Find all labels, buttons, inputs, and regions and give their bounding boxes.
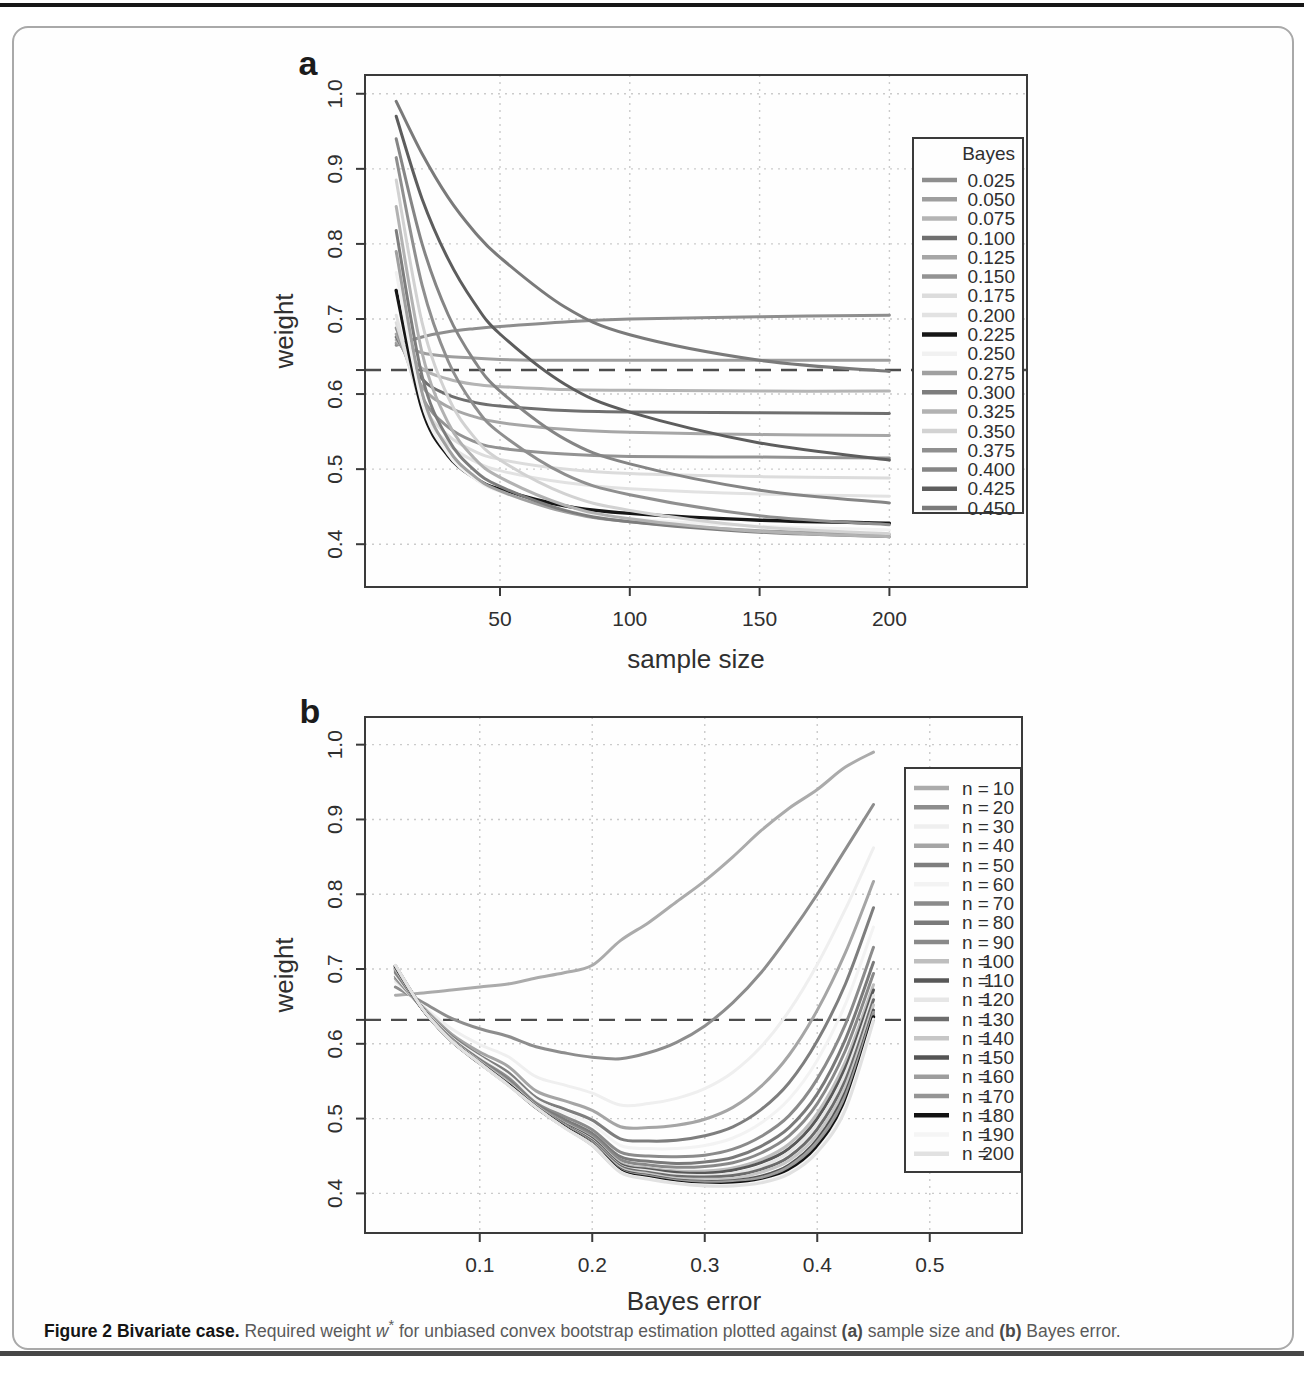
legend-label: 0.100 — [967, 228, 1015, 249]
y-tick-label: 0.9 — [323, 154, 346, 183]
series-line — [396, 251, 889, 534]
legend-label: 0.225 — [967, 324, 1015, 345]
panel-b-plot: 0.10.20.30.40.50.40.50.60.70.80.91.0n =1… — [323, 717, 1022, 1276]
x-tick-label: 0.1 — [465, 1253, 494, 1276]
legend-label: 0.375 — [967, 440, 1015, 461]
legend-label-value: 200 — [982, 1143, 1014, 1164]
legend-label: 0.175 — [967, 285, 1015, 306]
series-line — [396, 206, 889, 536]
legend-label: 0.025 — [967, 170, 1015, 191]
x-tick-label: 50 — [488, 607, 511, 630]
caption-text-3: sample size and — [863, 1321, 999, 1341]
caption-title: Figure 2 Bivariate case. — [44, 1321, 240, 1341]
figure-charts: 501001502000.40.50.60.70.80.91.0Bayes0.0… — [0, 0, 1304, 1384]
legend-label-value: 190 — [982, 1124, 1014, 1145]
panel-b-y-axis-title: weight — [269, 937, 299, 1014]
series-line — [395, 965, 873, 1186]
y-tick-label: 0.8 — [323, 880, 346, 909]
series-line — [396, 101, 889, 371]
legend-label-value: 50 — [993, 855, 1014, 876]
y-tick-label: 0.4 — [323, 1178, 346, 1208]
y-tick-label: 1.0 — [323, 79, 346, 108]
legend-label: 0.325 — [967, 401, 1015, 422]
series-line — [395, 968, 873, 1177]
x-tick-label: 0.3 — [690, 1253, 719, 1276]
y-tick-label: 0.7 — [323, 304, 346, 333]
legend-label-prefix: n = — [962, 874, 989, 895]
legend-label-value: 140 — [982, 1028, 1014, 1049]
caption-text-4: Bayes error. — [1022, 1321, 1121, 1341]
caption-panel-a-ref: (a) — [842, 1321, 863, 1341]
legend-label: 0.350 — [967, 421, 1015, 442]
legend-label-value: 60 — [993, 874, 1014, 895]
y-tick-label: 0.5 — [323, 454, 346, 483]
panel-a-x-axis-title: sample size — [627, 644, 764, 674]
legend-label: 0.450 — [967, 498, 1015, 519]
legend-label-prefix: n = — [962, 855, 989, 876]
legend-title: Bayes — [962, 143, 1015, 164]
figure-caption: Figure 2 Bivariate case. Required weight… — [44, 1316, 1259, 1343]
legend-label-value: 40 — [993, 835, 1014, 856]
legend-label-prefix: n = — [962, 835, 989, 856]
legend-label-value: 130 — [982, 1009, 1014, 1030]
panel-b-label: b — [300, 692, 321, 730]
legend-label: 0.150 — [967, 266, 1015, 287]
panel-a-label: a — [299, 44, 319, 82]
legend-label-value: 170 — [982, 1086, 1014, 1107]
caption-panel-b-ref: (b) — [999, 1321, 1021, 1341]
legend-label-value: 120 — [982, 989, 1014, 1010]
x-tick-label: 0.2 — [578, 1253, 607, 1276]
caption-text-2: for unbiased convex bootstrap estimation… — [394, 1321, 842, 1341]
legend-label-prefix: n = — [962, 893, 989, 914]
legend-label-prefix: n = — [962, 797, 989, 818]
x-tick-label: 200 — [872, 607, 907, 630]
legend-label: 0.250 — [967, 343, 1015, 364]
legend-label-value: 160 — [982, 1066, 1014, 1087]
y-tick-label: 0.6 — [323, 1029, 346, 1058]
y-tick-label: 0.7 — [323, 954, 346, 983]
legend-label-prefix: n = — [962, 816, 989, 837]
legend-label: 0.425 — [967, 478, 1015, 499]
y-tick-label: 1.0 — [323, 730, 346, 759]
series-line — [396, 315, 889, 345]
legend-label-prefix: n = — [962, 912, 989, 933]
legend-label: 0.050 — [967, 189, 1015, 210]
legend-label-value: 30 — [993, 816, 1014, 837]
legend-label: 0.200 — [967, 305, 1015, 326]
series-line — [395, 752, 873, 995]
legend-label-value: 90 — [993, 932, 1014, 953]
y-tick-label: 0.8 — [323, 229, 346, 258]
x-tick-label: 0.4 — [803, 1253, 833, 1276]
legend-label: 0.300 — [967, 382, 1015, 403]
figure-page: { "figure": { "panel_a_tag": "a", "panel… — [0, 0, 1304, 1384]
caption-text: Required weight — [240, 1321, 376, 1341]
legend-label: 0.275 — [967, 363, 1015, 384]
legend-label: 0.125 — [967, 247, 1015, 268]
legend-label-prefix: n = — [962, 778, 989, 799]
x-tick-label: 100 — [612, 607, 647, 630]
panel-a-y-axis-title: weight — [269, 293, 299, 370]
y-tick-label: 0.9 — [323, 805, 346, 834]
legend-label: 0.075 — [967, 208, 1015, 229]
x-tick-label: 150 — [742, 607, 777, 630]
legend-label-value: 10 — [993, 778, 1014, 799]
series-line — [396, 343, 889, 360]
series-line — [396, 328, 889, 458]
panel-b-x-axis-title: Bayes error — [627, 1286, 762, 1316]
legend-label-value: 150 — [982, 1047, 1014, 1068]
legend-label-prefix: n = — [962, 932, 989, 953]
y-tick-label: 0.4 — [323, 529, 346, 559]
legend-label-value: 100 — [982, 951, 1014, 972]
y-tick-label: 0.5 — [323, 1104, 346, 1133]
legend-label-value: 20 — [993, 797, 1014, 818]
panel-a-plot: 501001502000.40.50.60.70.80.91.0Bayes0.0… — [323, 75, 1027, 630]
legend-label-value: 70 — [993, 893, 1014, 914]
caption-w-symbol: w — [376, 1321, 389, 1341]
x-tick-label: 0.5 — [915, 1253, 944, 1276]
series-line — [396, 116, 889, 460]
legend-label-value: 80 — [993, 912, 1014, 933]
legend-label: 0.400 — [967, 459, 1015, 480]
y-tick-label: 0.6 — [323, 379, 346, 408]
legend-label-value: 110 — [984, 970, 1014, 991]
legend-label-value: 180 — [982, 1105, 1014, 1126]
